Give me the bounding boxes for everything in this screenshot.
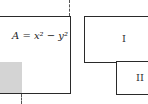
dashed-cut-line-top xyxy=(69,0,70,16)
region-i-label: I xyxy=(122,33,126,44)
removed-square xyxy=(0,62,22,93)
region-i-rect xyxy=(84,16,148,63)
region-ii-label: II xyxy=(136,72,144,83)
area-equation: A = x² − y² xyxy=(12,30,68,41)
dashed-cut-line-bottom xyxy=(21,94,22,104)
